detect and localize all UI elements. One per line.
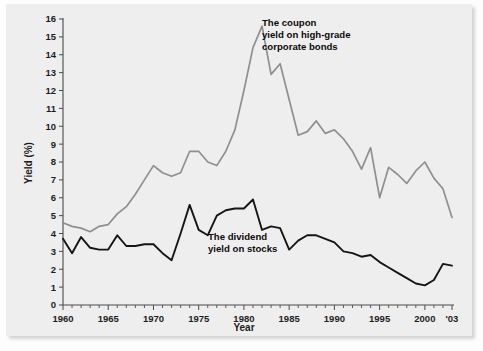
series-line-bonds [63, 26, 452, 232]
x-axis-title: Year [233, 322, 254, 333]
y-tick-label: 15 [45, 31, 56, 42]
bonds-annotation: The couponyield on high-gradecorporate b… [262, 17, 350, 52]
chart-figure: 012345678910111213141516 196019651970197… [0, 0, 483, 351]
y-tick-label: 6 [51, 192, 56, 203]
y-tick-label: 8 [51, 156, 56, 167]
y-tick-label: 5 [51, 210, 57, 221]
x-tick-label: 1985 [279, 313, 301, 324]
x-tick-label: 1975 [188, 313, 210, 324]
y-tick-label: 2 [51, 264, 56, 275]
y-axis-tick-labels: 012345678910111213141516 [45, 13, 56, 310]
chart-canvas: 012345678910111213141516 196019651970197… [0, 0, 483, 351]
y-tick-label: 12 [45, 85, 56, 96]
y-tick-label: 3 [51, 246, 56, 257]
y-tick-label: 9 [51, 139, 56, 150]
y-tick-label: 4 [51, 228, 57, 239]
yield-line-chart: 012345678910111213141516 196019651970197… [0, 0, 483, 351]
stocks-annotation: The dividendyield on stocks [208, 231, 277, 254]
chart-annotations: The couponyield on high-gradecorporate b… [208, 17, 350, 254]
y-tick-label: 0 [51, 299, 56, 310]
x-tick-label: 1990 [324, 313, 345, 324]
y-tick-label: 11 [46, 103, 57, 114]
x-tick-label: '03 [446, 313, 459, 324]
y-tick-label: 1 [51, 282, 57, 293]
y-tick-label: 16 [45, 13, 56, 24]
x-axis-tick-labels: 196019651970197519801985199019952000'03 [52, 313, 458, 324]
x-tick-label: 2000 [414, 313, 435, 324]
y-axis-title: Yield (%) [23, 142, 34, 184]
y-tick-label: 13 [45, 67, 56, 78]
x-tick-label: 1970 [143, 313, 164, 324]
x-tick-label: 1995 [369, 313, 391, 324]
y-tick-label: 14 [45, 49, 56, 60]
y-tick-label: 10 [45, 121, 56, 132]
x-axis-ticks [63, 305, 452, 310]
x-tick-label: 1960 [52, 313, 73, 324]
y-axis-ticks [59, 19, 63, 305]
y-tick-label: 7 [51, 174, 56, 185]
x-tick-label: 1965 [98, 313, 120, 324]
